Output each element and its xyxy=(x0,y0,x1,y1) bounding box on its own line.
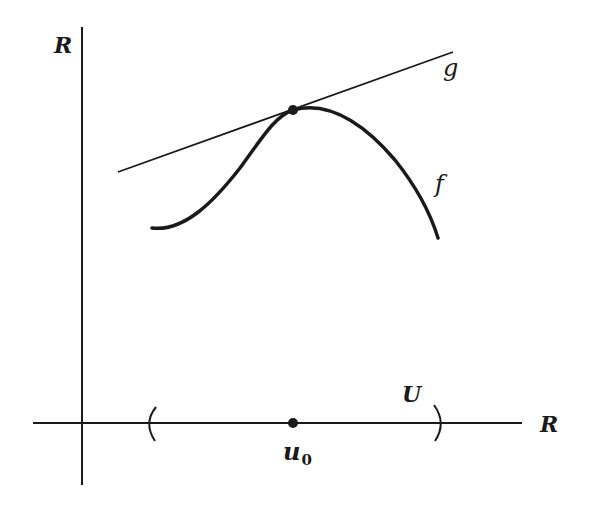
u0-label: u0 xyxy=(283,440,312,464)
u0-label-subscript: 0 xyxy=(301,451,311,469)
y-axis-label: R xyxy=(54,34,72,56)
x-axis-label: R xyxy=(540,413,558,435)
u0-point xyxy=(288,418,298,428)
curve-label: f xyxy=(435,172,444,196)
neighborhood-label: U xyxy=(402,383,421,405)
curve-f xyxy=(152,108,438,238)
diagram: R R g f U u0 xyxy=(0,0,590,519)
tangent-line-label: g xyxy=(443,56,458,80)
u0-label-base: u xyxy=(283,437,300,466)
tangent-point xyxy=(288,105,298,115)
